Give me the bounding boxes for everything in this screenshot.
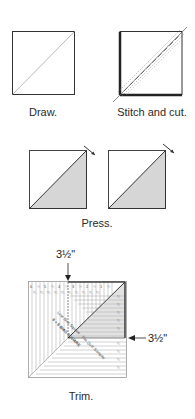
svg-text:¼: ¼	[117, 311, 120, 315]
stitch-square	[113, 27, 187, 102]
arrow-left-icon	[128, 335, 135, 341]
svg-text:¼: ¼	[117, 342, 120, 346]
caption-trim: Trim.	[64, 390, 98, 402]
arrow-down-icon	[65, 275, 71, 281]
caption-press: Press.	[70, 217, 124, 229]
svg-text:¼: ¼	[117, 295, 120, 299]
draw-square	[13, 32, 75, 95]
svg-text:¼: ¼	[117, 319, 120, 323]
svg-text:¼: ¼	[117, 303, 120, 307]
svg-text:¼: ¼	[117, 358, 120, 362]
diagram-canvas: 6½5 ½4½ 3½2 ½1½ ¼¼¼ ¼¼¼ ¼¼¼ ¼ Line Bias …	[0, 0, 195, 419]
dimension-top: 3½"	[56, 248, 75, 260]
svg-text:¼: ¼	[117, 327, 120, 331]
bias-square-ruler: 6½5 ½4½ 3½2 ½1½ ¼¼¼ ¼¼¼ ¼¼¼ ¼ Line Bias …	[29, 263, 147, 378]
dimension-right: 3½"	[148, 332, 167, 344]
svg-text:¼: ¼	[117, 366, 120, 370]
caption-draw: Draw.	[12, 106, 74, 118]
caption-stitch: Stitch and cut.	[114, 106, 190, 118]
svg-text:¼: ¼	[117, 350, 120, 354]
press-square-1	[30, 146, 96, 209]
press-square-2	[109, 144, 175, 209]
